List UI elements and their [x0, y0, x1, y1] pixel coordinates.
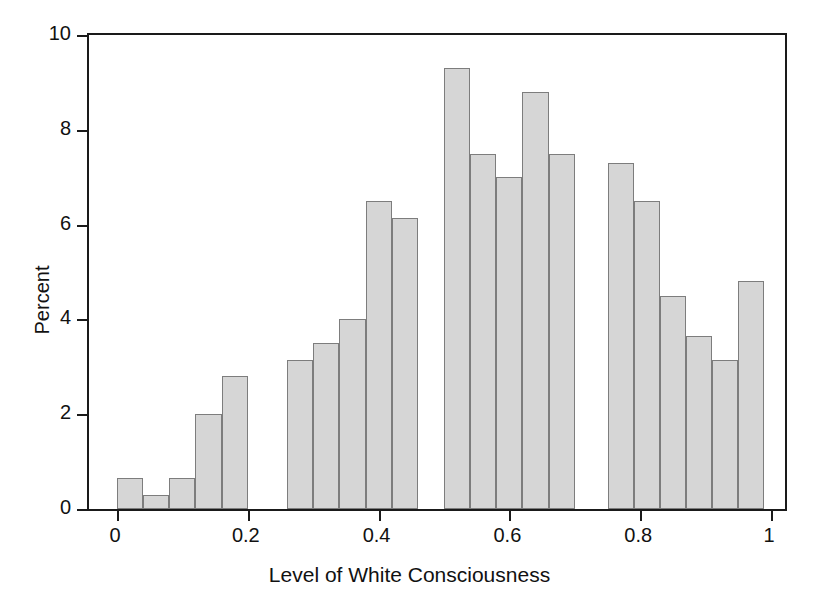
x-axis-tick-label: 0.4	[363, 524, 391, 547]
x-axis-tick-label: 0.2	[232, 524, 260, 547]
x-axis-tick	[117, 509, 119, 521]
x-axis-tick-label: 1	[763, 524, 774, 547]
x-axis-tick	[248, 509, 250, 521]
histogram-bar	[339, 319, 365, 509]
x-axis-tick	[640, 509, 642, 521]
histogram-bar	[470, 154, 496, 510]
y-axis-tick-label: 4	[60, 306, 71, 329]
histogram-bar	[549, 154, 575, 510]
histogram-bar	[313, 343, 339, 509]
x-axis-tick-label: 0.6	[493, 524, 521, 547]
histogram-bar	[169, 478, 195, 509]
histogram-bar	[634, 201, 660, 509]
y-axis-tick	[77, 509, 89, 511]
x-axis-title: Level of White Consciousness	[0, 563, 819, 587]
histogram-bar	[117, 478, 143, 509]
histogram-bar	[660, 296, 686, 509]
histogram-bar	[287, 360, 313, 509]
y-axis-tick	[77, 319, 89, 321]
histogram-bar	[712, 360, 738, 509]
histogram-bar	[522, 92, 548, 509]
x-axis-tick-label: 0	[109, 524, 120, 547]
y-axis-tick-label: 0	[60, 496, 71, 519]
histogram-bar	[222, 376, 248, 509]
plot-area	[87, 33, 787, 511]
histogram-bar	[608, 163, 634, 509]
x-axis-tick	[509, 509, 511, 521]
histogram-bar	[738, 281, 764, 509]
y-axis-tick	[77, 414, 89, 416]
y-axis-tick-label: 10	[49, 22, 71, 45]
y-axis-tick-label: 2	[60, 401, 71, 424]
x-axis-tick	[771, 509, 773, 521]
x-axis-tick	[379, 509, 381, 521]
y-axis-tick-label: 6	[60, 211, 71, 234]
histogram-bar	[143, 495, 169, 509]
x-axis-tick-label: 0.8	[624, 524, 652, 547]
histogram-bar	[444, 68, 470, 509]
y-axis-tick	[77, 35, 89, 37]
histogram-bar	[366, 201, 392, 509]
y-axis-title: Percent	[31, 265, 54, 334]
histogram-bar	[195, 414, 221, 509]
histogram-bar	[686, 336, 712, 509]
histogram-figure: 0246810 Percent Level of White Conscious…	[0, 0, 819, 599]
histogram-bars	[89, 35, 785, 509]
y-axis-tick	[77, 130, 89, 132]
histogram-bar	[496, 177, 522, 509]
y-axis-tick-label: 8	[60, 116, 71, 139]
y-axis-tick	[77, 225, 89, 227]
histogram-bar	[392, 218, 418, 510]
